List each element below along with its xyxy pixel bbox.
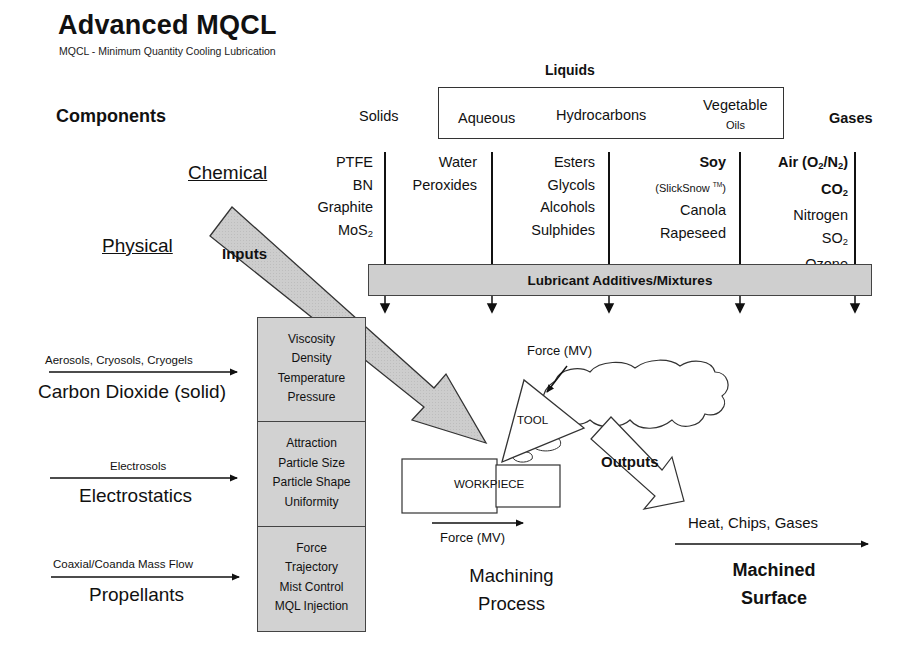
machining-line1: Machining [459,562,564,590]
byproducts-label: Heat, Chips, Gases [688,514,818,531]
property: Uniformity [258,493,365,513]
co2-sublabel: Aerosols, Cryosols, Cryogels [45,354,193,366]
property: Attraction [258,434,365,454]
electrostatics-sublabel: Electrosols [110,460,166,472]
electrostatics-label: Electrostatics [79,485,192,507]
property: Pressure [258,388,365,408]
machining-line2: Process [459,590,564,618]
property: Density [258,349,365,369]
down-arrow-icons [381,296,859,312]
machining-process-label: Machining Process [459,562,564,618]
property: Viscosity [258,330,365,350]
inputs-label: Inputs [222,245,267,262]
lubricant-bar-label: Lubricant Additives/Mixtures [528,273,713,288]
property-box-propellants: Force Trajectory Mist Control MQL Inject… [257,526,366,632]
property-box-co2: Viscosity Density Temperature Pressure [257,317,366,423]
property: Particle Size [258,454,365,474]
property: Particle Shape [258,473,365,493]
property: Temperature [258,369,365,389]
property-box-electrostatics: Attraction Particle Size Particle Shape … [257,421,366,527]
propellants-sublabel: Coaxial/Coanda Mass Flow [53,558,193,570]
lubricant-additives-bar: Lubricant Additives/Mixtures [368,264,872,296]
property-stack: Viscosity Density Temperature Pressure A… [257,318,366,632]
machined-line2: Surface [714,584,834,612]
force-bottom-label: Force (MV) [440,530,505,545]
co2-label: Carbon Dioxide (solid) [38,381,226,403]
property: Trajectory [258,558,365,578]
workpiece-label: WORKPIECE [454,478,524,490]
outputs-label: Outputs [601,453,659,470]
propellants-label: Propellants [89,584,184,606]
tool-label: TOOL [517,414,548,426]
machined-surface-label: Machined Surface [714,556,834,612]
force-top-label: Force (MV) [527,343,592,358]
property: Force [258,539,365,559]
machined-line1: Machined [714,556,834,584]
property: Mist Control [258,578,365,598]
property: MQL Injection [258,597,365,617]
